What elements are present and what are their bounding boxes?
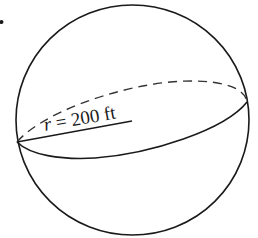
bullet-marker <box>0 20 4 24</box>
sphere-diagram: r = 200 ft <box>0 0 258 238</box>
radius-value: 200 ft <box>69 102 118 131</box>
